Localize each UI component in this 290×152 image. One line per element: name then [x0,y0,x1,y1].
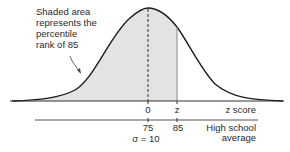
score-tick-label-75: 75 [143,122,154,133]
z-axis-title: z score [225,104,256,115]
annotation-line-1: Shaded area [36,6,91,17]
z-tick-label-z: z [175,104,180,115]
sigma-label: σ = 10 [132,133,159,144]
annotation-line-2: represents the [36,17,97,28]
annotation-line-4: rank of 85 [36,39,78,50]
score-axis-title-line-2: average [222,132,256,143]
annotation-line-3: percentile [36,28,77,39]
z-tick-label-0: 0 [145,104,150,115]
score-tick-label-85: 85 [173,122,184,133]
normal-distribution-diagram: Shaded area represents the percentile ra… [0,0,290,152]
